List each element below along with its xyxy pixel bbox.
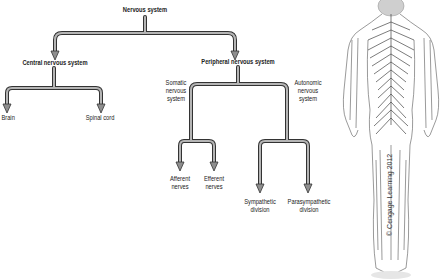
autonomic-line-2: nervous (292, 87, 325, 95)
efferent-line-1: Efferent (201, 175, 227, 183)
node-somatic-nervous-system: Somatic nervous system (158, 79, 194, 103)
node-brain: Brain (1, 114, 14, 122)
node-peripheral-nervous-system: Peripheral nervous system (199, 58, 278, 66)
node-nervous-system: Nervous system (120, 6, 169, 14)
node-afferent-nerves: Afferent nerves (164, 175, 196, 191)
somatic-line-2: nervous (161, 87, 191, 95)
efferent-line-2: nerves (201, 183, 227, 191)
somatic-line-3: system (161, 95, 191, 103)
sympathetic-line-1: Sympathetic (242, 198, 278, 206)
sympathetic-line-2: division (242, 206, 278, 214)
somatic-line-1: Somatic (161, 79, 191, 87)
parasympathetic-line-2: division (287, 206, 331, 214)
node-efferent-nerves: Efferent nerves (198, 175, 230, 191)
parasympathetic-line-1: Parasympathetic (287, 198, 331, 206)
node-central-nervous-system: Central nervous system (21, 59, 88, 67)
autonomic-line-1: Autonomic (292, 79, 325, 87)
node-autonomic-nervous-system: Autonomic nervous system (288, 79, 328, 103)
hierarchy-arrows (0, 0, 448, 280)
autonomic-line-3: system (292, 95, 325, 103)
node-sympathetic-division: Sympathetic division (238, 198, 282, 214)
node-parasympathetic-division: Parasympathetic division (282, 198, 336, 214)
afferent-line-1: Afferent (167, 175, 193, 183)
afferent-line-2: nerves (167, 183, 193, 191)
copyright-credit: © Cengage Learning 2012 (386, 136, 393, 236)
node-spinal-cord: Spinal cord (84, 114, 117, 122)
